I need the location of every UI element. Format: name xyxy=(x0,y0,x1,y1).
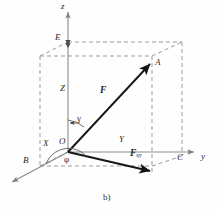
vector-label-Fxy: Fxy xyxy=(130,149,142,159)
point-label-B: B xyxy=(23,156,29,165)
figure-3d-force-decomposition: z y E O A B C Z X Y F Fxy γ φ b) xyxy=(0,0,220,212)
box-edge-top-back-left xyxy=(40,42,68,56)
axis-label-z: z xyxy=(61,2,65,11)
angle-arc-gamma xyxy=(68,120,84,127)
axis-label-y: y xyxy=(201,152,205,161)
component-label-X: X xyxy=(43,139,49,148)
point-label-A: A xyxy=(155,58,161,67)
point-label-E: E xyxy=(55,33,61,42)
vector-label-Fxy-subscript: xy xyxy=(136,152,141,158)
vector-label-F: F xyxy=(100,86,106,96)
diagram-canvas xyxy=(0,0,220,212)
vector-F xyxy=(68,64,150,152)
point-label-C: C xyxy=(177,153,183,162)
component-label-Y: Y xyxy=(119,135,124,144)
angle-label-phi: φ xyxy=(64,155,69,164)
box-edge-top-right xyxy=(152,42,182,56)
angle-label-gamma: γ xyxy=(77,114,81,123)
figure-caption: b) xyxy=(103,192,111,202)
point-label-O: O xyxy=(59,137,66,146)
component-label-Z: Z xyxy=(60,84,65,93)
